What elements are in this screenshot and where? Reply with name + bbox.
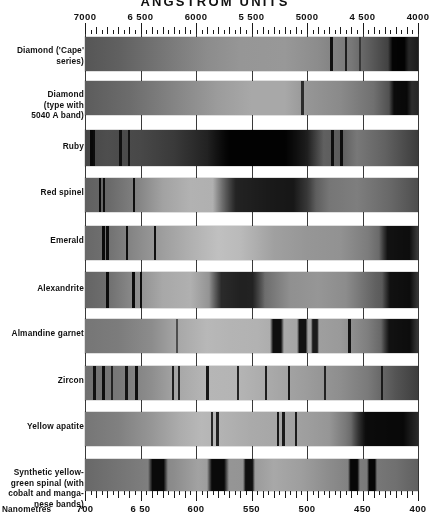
top-tick (240, 27, 241, 34)
spectrum-band (85, 226, 418, 260)
bottom-tick (91, 491, 92, 495)
spectrum-row-label: Yellow apatite (27, 421, 84, 432)
bottom-tick (113, 491, 114, 495)
spectrum-row: Synthetic yellow- green spinal (with cob… (0, 459, 430, 491)
top-tick (363, 23, 364, 34)
absorption-line (99, 178, 102, 212)
top-tick (85, 23, 86, 34)
absorption-line (172, 366, 174, 400)
bottom-tick (374, 491, 375, 498)
absorption-line (106, 272, 109, 308)
bottom-tick (102, 491, 103, 495)
spectrum-row: Zircon (0, 366, 430, 400)
absorption-line (301, 81, 303, 115)
top-tick-label: 6000 (185, 11, 208, 22)
bottom-tick (207, 491, 208, 498)
absorption-band (243, 459, 255, 491)
bottom-tick (240, 491, 241, 498)
top-tick-label: 5000 (296, 11, 319, 22)
absorption-line (128, 130, 130, 166)
absorption-band (207, 130, 307, 166)
bottom-tick (412, 491, 413, 495)
spectrum-row-label: Zircon (58, 375, 84, 386)
top-tick (329, 27, 330, 34)
chart-title: ANGSTROM UNITS (0, 0, 430, 9)
top-tick-label: 7000 (74, 11, 97, 22)
bottom-tick (157, 491, 158, 495)
spectrum-row: Diamond (type with 5040 A band) (0, 81, 430, 115)
bottom-tick (168, 491, 169, 495)
spectrum-band (85, 37, 418, 71)
top-axis-labels: 70006 50060005 50050004 5004000 (0, 11, 430, 23)
absorption-band (382, 272, 418, 308)
absorption-line (331, 130, 334, 166)
bottom-tick-label: 700 (76, 503, 93, 514)
bottom-tick (351, 491, 352, 498)
top-tick (274, 27, 275, 34)
absorption-line (282, 412, 284, 446)
absorption-line (345, 37, 347, 71)
absorption-line (135, 366, 138, 400)
spectrum-band (85, 178, 418, 212)
absorption-line (277, 412, 279, 446)
spectrum-row-label: Ruby (63, 141, 84, 152)
spectrum-row-label: Red spinel (41, 187, 84, 198)
top-tick-label: 5 500 (239, 11, 265, 22)
bottom-tick (363, 491, 364, 501)
absorption-line (348, 319, 351, 353)
bottom-tick (268, 491, 269, 495)
bottom-axis-title: Nanometres (2, 505, 51, 514)
absorption-line (119, 130, 121, 166)
spectrum-continuum (85, 81, 418, 115)
bottom-tick (368, 491, 369, 495)
bottom-tick (246, 491, 247, 495)
spectrum-row: Alexandrite (0, 272, 430, 308)
bottom-tick (313, 491, 314, 495)
bottom-tick (152, 491, 153, 498)
bottom-tick (263, 491, 264, 498)
absorption-line (381, 366, 383, 400)
bottom-tick (301, 491, 302, 495)
bottom-tick (196, 491, 197, 501)
absorption-band (148, 459, 168, 491)
absorption-line (93, 366, 96, 400)
spectrum-band (85, 412, 418, 446)
absorption-band (367, 459, 376, 491)
bottom-tick (401, 491, 402, 495)
top-tick (218, 27, 219, 34)
absorption-band (213, 178, 316, 212)
top-tick (385, 27, 386, 34)
spectrum-row: Emerald (0, 226, 430, 260)
absorption-line (103, 178, 105, 212)
bottom-tick (390, 491, 391, 495)
bottom-tick (324, 491, 325, 495)
bottom-tick-label: 6 50 (130, 503, 150, 514)
bottom-tick (285, 491, 286, 498)
top-tick (252, 23, 253, 34)
top-tick (307, 23, 308, 34)
absorption-line (295, 412, 297, 446)
top-tick (207, 27, 208, 34)
bottom-tick (407, 491, 408, 498)
absorption-band (209, 272, 265, 308)
top-tick (185, 27, 186, 34)
bottom-tick (185, 491, 186, 498)
top-axis-ruler (0, 23, 430, 34)
top-tick (107, 27, 108, 34)
absorption-line (206, 366, 208, 400)
absorption-band (311, 319, 319, 353)
bottom-tick (346, 491, 347, 495)
absorption-band (207, 459, 229, 491)
absorption-line (140, 272, 143, 308)
top-tick (340, 27, 341, 34)
spectrum-band (85, 319, 418, 353)
absorption-line (211, 412, 214, 446)
top-tick (129, 27, 130, 34)
bottom-tick (279, 491, 280, 495)
top-tick (296, 27, 297, 34)
spectrum-row: Red spinel (0, 178, 430, 212)
spectra-chart: ANGSTROM UNITS 70006 50060005 50050004 5… (0, 0, 430, 526)
bottom-axis-labels: 7006 50600550500450400 (0, 503, 430, 515)
top-tick (318, 27, 319, 34)
top-tick (163, 27, 164, 34)
